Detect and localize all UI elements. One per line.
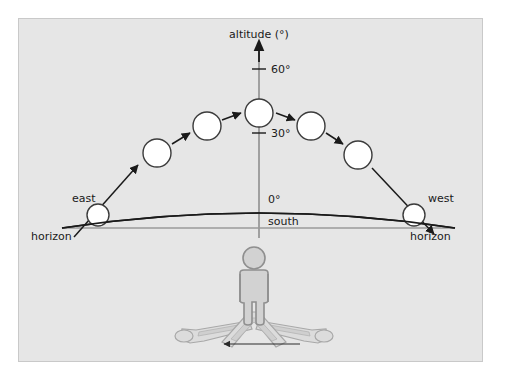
label-south: south xyxy=(268,215,299,228)
shadow-left-foot xyxy=(175,330,193,342)
tick-label-30: 30° xyxy=(271,127,291,140)
sun-morning-low xyxy=(143,139,171,167)
altitude-axis xyxy=(252,44,266,238)
diagram-svg-layer: altitude (°) 60° 30° 0° south east horiz… xyxy=(0,0,508,384)
shadow-right-foot xyxy=(315,330,333,342)
sun-arrow-3 xyxy=(222,113,241,120)
sun-afternoon-high xyxy=(297,112,325,140)
person-head xyxy=(243,247,265,269)
sun-arrow-2 xyxy=(172,133,190,144)
label-west: west xyxy=(428,192,454,205)
sun-afternoon-low xyxy=(344,141,372,169)
label-horizon-right: horizon xyxy=(410,230,451,243)
sun-morning-high xyxy=(193,112,221,140)
axis-title: altitude (°) xyxy=(229,28,289,41)
sun-arrow-5 xyxy=(326,133,343,144)
diagram-canvas: altitude (°) 60° 30° 0° south east horiz… xyxy=(0,0,508,384)
label-east: east xyxy=(72,192,96,205)
sun-arrow-4 xyxy=(276,113,295,120)
sun-positions xyxy=(87,99,425,226)
label-horizon-left: horizon xyxy=(31,230,72,243)
shadow-group xyxy=(175,312,333,347)
tick-label-0: 0° xyxy=(268,193,281,206)
sun-noon-south xyxy=(245,99,273,127)
tick-label-60: 60° xyxy=(271,63,291,76)
